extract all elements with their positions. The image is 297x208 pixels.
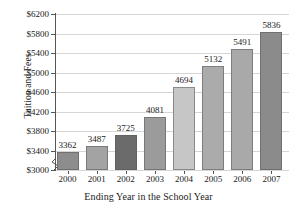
x-axis-title: Ending Year in the School Year bbox=[0, 191, 297, 202]
bar-value-label: 5132 bbox=[204, 54, 222, 64]
y-tick-label: $6200 bbox=[27, 9, 50, 19]
gridline bbox=[56, 73, 289, 74]
y-tick-label: $5400 bbox=[27, 48, 50, 58]
bar bbox=[57, 152, 79, 170]
y-tick-mark bbox=[51, 14, 55, 15]
y-tick-label: $4600 bbox=[27, 87, 50, 97]
y-tick-label: $5800 bbox=[27, 29, 50, 39]
plot-area: $3000$3400$3800$4200$4600$5000$5400$5800… bbox=[56, 14, 289, 170]
x-tick-label: 2006 bbox=[233, 174, 251, 184]
y-tick-mark bbox=[51, 53, 55, 54]
gridline bbox=[56, 170, 289, 171]
y-tick-mark bbox=[51, 73, 55, 74]
y-tick-mark bbox=[51, 34, 55, 35]
x-tick-label: 2000 bbox=[59, 174, 77, 184]
gridline bbox=[56, 34, 289, 35]
y-tick-label: $3000 bbox=[27, 165, 50, 175]
y-tick-mark bbox=[51, 151, 55, 152]
gridline bbox=[56, 14, 289, 15]
x-tick-label: 2002 bbox=[117, 174, 135, 184]
x-tick-label: 2004 bbox=[175, 174, 193, 184]
y-tick-label: $5000 bbox=[27, 68, 50, 78]
bar-value-label: 5836 bbox=[262, 20, 280, 30]
x-tick-label: 2007 bbox=[262, 174, 280, 184]
bar-value-label: 3487 bbox=[88, 134, 106, 144]
y-tick-mark bbox=[51, 112, 55, 113]
bar-value-label: 3362 bbox=[59, 140, 77, 150]
y-tick-label: $3400 bbox=[27, 146, 50, 156]
bar bbox=[173, 87, 195, 170]
y-tick-label: $4200 bbox=[27, 107, 50, 117]
bar-value-label: 4694 bbox=[175, 75, 193, 85]
bar bbox=[86, 146, 108, 170]
bar bbox=[231, 49, 253, 170]
bar bbox=[115, 135, 137, 170]
gridline bbox=[56, 53, 289, 54]
bar-value-label: 3725 bbox=[117, 123, 135, 133]
x-tick-label: 2001 bbox=[88, 174, 106, 184]
x-tick-label: 2003 bbox=[146, 174, 164, 184]
x-tick-label: 2005 bbox=[204, 174, 222, 184]
bar bbox=[202, 66, 224, 170]
bar-value-label: 4081 bbox=[146, 105, 164, 115]
bar bbox=[260, 32, 282, 170]
y-tick-mark bbox=[51, 170, 55, 171]
y-tick-label: $3800 bbox=[27, 126, 50, 136]
y-tick-mark bbox=[51, 131, 55, 132]
bar bbox=[144, 117, 166, 170]
y-tick-mark bbox=[51, 92, 55, 93]
bar-value-label: 5491 bbox=[233, 37, 251, 47]
bar-chart: Tuition and Fees $3000$3400$3800$4200$46… bbox=[0, 0, 297, 208]
